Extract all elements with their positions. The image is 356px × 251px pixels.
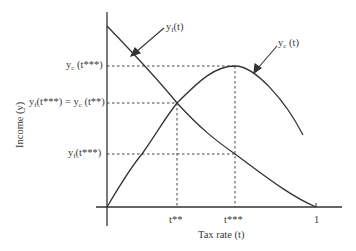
y-tick-equal: yf(t***) = yc (t**) xyxy=(29,97,105,109)
y-tick-yf-t3: yf(t***) xyxy=(68,148,101,160)
x-axis-label: Tax rate (t) xyxy=(198,230,245,241)
yf-arrow-icon xyxy=(131,28,164,56)
y-tick-yc-t3: yc (t***) xyxy=(66,60,103,72)
yc-arrow-icon xyxy=(254,46,277,73)
x-tick-one: 1 xyxy=(314,215,319,226)
x-tick-t2: t** xyxy=(169,215,182,226)
guide-lines xyxy=(107,66,235,207)
y-axis-label: Income (y) xyxy=(14,102,25,148)
yc-curve-label: yc (t) xyxy=(278,38,299,50)
x-tick-t3: t*** xyxy=(224,215,243,226)
yf-curve-label: yf(t) xyxy=(166,22,184,34)
yc-curve xyxy=(107,66,303,207)
